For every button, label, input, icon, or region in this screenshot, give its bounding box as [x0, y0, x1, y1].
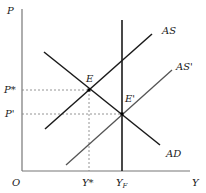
- point-e-prime: [121, 113, 124, 116]
- as-prime-curve: [66, 70, 172, 165]
- p-star-label: P*: [3, 84, 16, 95]
- as-curve: [45, 34, 152, 129]
- point-e-prime-label: E': [124, 93, 135, 104]
- as-label: AS: [161, 25, 176, 36]
- ad-label: AD: [165, 148, 181, 159]
- point-e-label: E: [85, 73, 94, 84]
- as-prime-label: AS': [175, 61, 193, 72]
- y-axis-label: P: [6, 5, 14, 16]
- p-prime-label: P': [4, 108, 14, 119]
- as-ad-diagram: P Y O P* P' Y* YF E E' AS AS' AD: [0, 0, 206, 193]
- y-star-label: Y*: [82, 177, 94, 188]
- ad-curve: [44, 52, 160, 145]
- point-e: [88, 89, 91, 92]
- yf-label: YF: [116, 177, 129, 190]
- x-axis-label: Y: [192, 177, 200, 188]
- origin-label: O: [12, 177, 20, 188]
